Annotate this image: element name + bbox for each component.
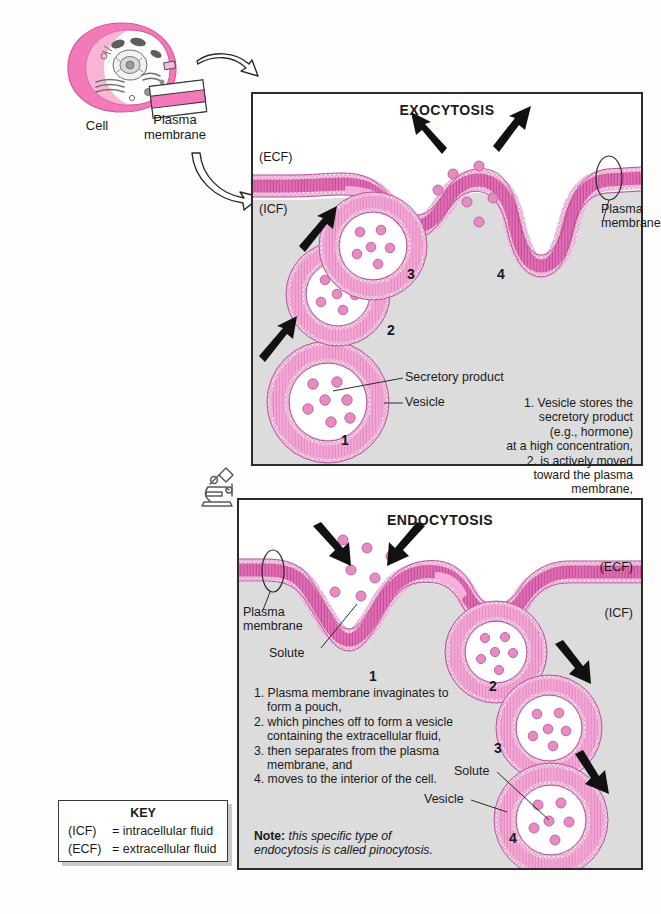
secretory-product-label: Secretory product (405, 370, 504, 384)
caption-line: toward the plasma (417, 468, 633, 482)
key-abbr-ecf: (ECF) (68, 842, 112, 856)
plasma-membrane-label-line2: membrane (135, 127, 215, 142)
endocytosis-note: Note: this specific type of endocytosis … (254, 829, 454, 858)
endocytosis-caption: 1. Plasma membrane invaginates to form a… (254, 686, 460, 787)
key-abbr-icf: (ICF) (68, 824, 112, 838)
callout-line2: membrane (243, 619, 303, 633)
caption-item: 2. which pinches off to form a vesicle c… (254, 715, 460, 744)
caption-item: 3. then separates from the plasma membra… (254, 744, 460, 773)
key-definition-ecf: = extracellular fluid (112, 842, 217, 856)
key-box: KEY (ICF)= intracellular fluid (ECF)= ex… (58, 800, 228, 862)
endocytosis-icf-label: (ICF) (605, 606, 633, 620)
endocytosis-step-4: 4 (509, 830, 517, 846)
plasma-membrane-label-line1: Plasma (135, 112, 215, 127)
endocytosis-step-3: 3 (494, 740, 502, 756)
key-row-ecf: (ECF)= extracellular fluid (59, 842, 227, 856)
caption-line: at a high concentration, (417, 439, 633, 453)
exocytosis-step-2: 2 (387, 322, 395, 338)
endocytosis-step-2: 2 (489, 678, 497, 694)
key-row-icf: (ICF)= intracellular fluid (59, 824, 227, 838)
panel-exocytosis: EXOCYTOSIS (251, 92, 643, 466)
caption-item: 4. moves to the interior of the cell. (254, 772, 460, 786)
plasma-membrane-label: Plasma membrane (135, 112, 215, 142)
callout-line1: Plasma (601, 202, 661, 216)
endocytosis-artwork (239, 500, 641, 868)
endocytosis-step-1: 1 (369, 668, 377, 684)
key-definition-icf: = intracellular fluid (112, 824, 213, 838)
caption-line: 2. is actively moved (417, 454, 633, 468)
callout-line2: membrane (601, 216, 661, 230)
caption-line: (e.g., hormone) (417, 425, 633, 439)
caption-item: 1. Plasma membrane invaginates to form a… (254, 686, 460, 715)
endocytosis-note-prefix: Note: (254, 829, 285, 843)
panel-endocytosis: ENDOCYTOSIS (237, 498, 643, 870)
key-title: KEY (59, 806, 227, 820)
exocytosis-step-4: 4 (497, 266, 505, 282)
exocytosis-plasma-membrane-callout: Plasma membrane (601, 202, 661, 230)
callout-line1: Plasma (243, 605, 303, 619)
caption-line: membrane, (417, 482, 633, 496)
exocytosis-step-3: 3 (407, 266, 415, 282)
endocytosis-solute-label-left: Solute (269, 646, 304, 660)
exocytosis-icf-label: (ICF) (259, 202, 287, 216)
exocytosis-step-1: 1 (341, 432, 349, 448)
curved-outline-arrow-icon-top (196, 52, 262, 88)
caption-line: secretory product (417, 410, 633, 424)
endocytosis-vesicle-label: Vesicle (424, 792, 464, 806)
exocytosis-ecf-label: (ECF) (259, 150, 292, 164)
endocytosis-plasma-membrane-callout: Plasma membrane (243, 605, 303, 633)
caption-line: 1. Vesicle stores the (417, 396, 633, 410)
vesicle-step-1 (267, 341, 389, 463)
endocytosis-ecf-label: (ECF) (600, 560, 633, 574)
cell-label: Cell (62, 118, 132, 133)
